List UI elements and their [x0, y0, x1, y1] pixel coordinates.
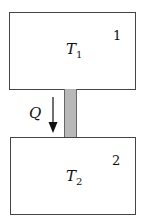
thermal-connector-rod: [64, 89, 77, 138]
temperature-t2-label: T2: [66, 167, 82, 187]
temperature-t1-label: T1: [66, 40, 82, 60]
arrow-down-icon: [47, 97, 59, 133]
heat-flow-label: Q: [29, 104, 41, 122]
body-1-number: 1: [113, 28, 121, 43]
body-2-number: 2: [112, 153, 120, 168]
